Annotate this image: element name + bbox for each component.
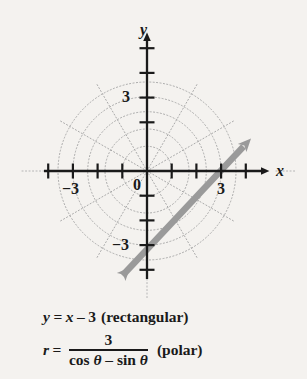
caption-polar-equation: r = 3 cos θ – sin θ (polar): [0, 328, 307, 372]
polar-line-figure: y x 0 −3 3 3 −3 y = x – 3 (rectangular) …: [0, 0, 307, 379]
fraction-numerator: 3: [105, 332, 113, 349]
y-tick-label-neg3: −3: [112, 237, 129, 253]
denominator-sin: sin: [117, 351, 136, 368]
equation-caption: y = x – 3 (rectangular) r = 3 cos θ – si…: [0, 306, 307, 372]
line-y-equals-x-minus-3: [123, 147, 244, 276]
caption-rectangular-equation: y = x – 3 (rectangular): [0, 306, 307, 328]
denominator-cos: cos: [69, 351, 90, 368]
fraction-denominator: cos θ – sin θ: [69, 351, 148, 368]
denominator-theta-2: θ: [140, 351, 148, 368]
caption1-note: (rectangular): [96, 308, 189, 326]
caption2-equals: =: [49, 341, 65, 359]
polar-fraction: 3 cos θ – sin θ: [69, 332, 148, 368]
y-tick-label-pos3: 3: [122, 89, 130, 105]
y-axis-label: y: [140, 22, 147, 38]
caption1-lhs: y: [43, 308, 50, 326]
x-tick-label-pos3: 3: [217, 181, 225, 197]
caption2-note: (polar): [152, 341, 203, 359]
caption1-minus: –: [73, 308, 88, 326]
caption1-equals: =: [50, 308, 66, 326]
caption1-constant: 3: [88, 308, 96, 326]
origin-label: 0: [133, 177, 141, 193]
denominator-minus: –: [105, 351, 113, 368]
x-tick-label-neg3: −3: [62, 181, 79, 197]
x-axis-label: x: [276, 163, 284, 179]
denominator-theta-1: θ: [93, 351, 101, 368]
caption1-rhs-var: x: [66, 308, 74, 326]
